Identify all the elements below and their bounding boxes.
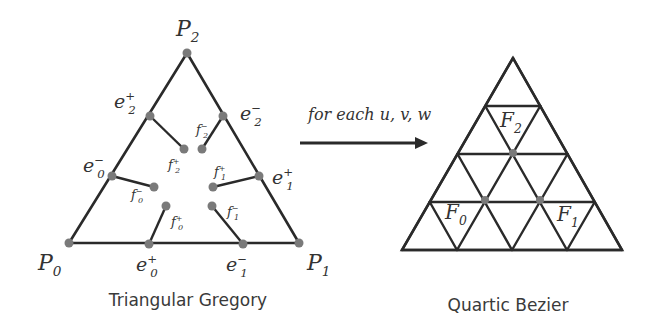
arrow-head-icon: [415, 137, 428, 149]
edge-face-connector: [112, 176, 154, 187]
face-label-f0: F0: [444, 200, 467, 228]
corner-label-p2: P2: [175, 16, 199, 45]
quartic-bezier-patch: F2F0F1: [402, 58, 622, 250]
interior-control-point-dot: [481, 196, 489, 204]
triangular-gregory-patch: P0P1P2e+2e−2e−0e+1e+0e−1f+2f−2f−0f+1f+0f…: [37, 16, 330, 280]
control-point-dot: [209, 183, 218, 192]
interior-control-point-dot: [509, 149, 517, 157]
edge-point-label: e−1: [226, 252, 248, 280]
control-point-dot: [295, 239, 304, 248]
edge-point-label: e−2: [240, 101, 262, 129]
edge-point-label: e−0: [83, 153, 105, 181]
corner-label-p1: P1: [306, 250, 330, 279]
edge-face-connector: [149, 206, 166, 244]
right-caption: Quartic Bezier: [448, 295, 569, 315]
control-point-dot: [219, 112, 228, 121]
face-point-label: f+2: [167, 157, 180, 175]
face-point-label: f−0: [130, 187, 143, 205]
diagram-svg: P0P1P2e+2e−2e−0e+1e+0e−1f+2f−2f−0f+1f+0f…: [0, 0, 656, 327]
control-point-dot: [183, 49, 192, 58]
left-caption: Triangular Gregory: [108, 290, 267, 310]
face-point-label: f−2: [195, 122, 208, 140]
control-point-dot: [146, 112, 155, 121]
edge-point-label: e+0: [136, 252, 158, 280]
control-point-dot: [108, 172, 117, 181]
interior-control-point-dot: [536, 196, 544, 204]
edge-point-label: e+1: [272, 165, 294, 193]
diagram-canvas: P0P1P2e+2e−2e−0e+1e+0e−1f+2f−2f−0f+1f+0f…: [0, 0, 656, 327]
transform-arrow: for each u, v, w: [300, 105, 431, 149]
face-label-f2: F2: [499, 108, 522, 136]
control-point-dot: [145, 240, 154, 249]
control-point-dot: [162, 202, 171, 211]
control-point-dot: [208, 202, 217, 211]
edge-point-label: e+2: [114, 89, 136, 117]
control-point-dot: [239, 240, 248, 249]
control-point-dot: [65, 239, 74, 248]
corner-label-p0: P0: [37, 250, 62, 279]
control-point-dot: [180, 145, 189, 154]
control-point-dot: [255, 172, 264, 181]
face-label-f1: F1: [556, 202, 579, 230]
arrow-label: for each u, v, w: [307, 105, 431, 124]
control-point-dot: [198, 145, 207, 154]
edge-face-connector: [150, 116, 184, 149]
face-point-label: f+0: [170, 214, 183, 232]
face-point-label: f+1: [213, 164, 226, 182]
face-point-label: f−1: [226, 204, 239, 222]
control-point-dot: [150, 183, 159, 192]
